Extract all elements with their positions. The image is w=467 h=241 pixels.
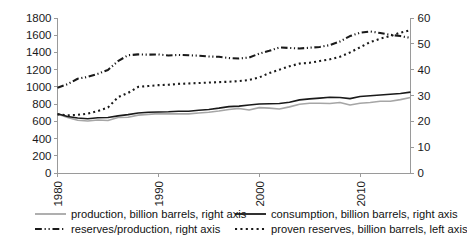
plot-area: 020040060080010001200140016001800 010203… bbox=[26, 12, 430, 207]
legend-label: reserves/production, right axis bbox=[71, 223, 221, 235]
left-axis-tick-label: 1200 bbox=[26, 64, 52, 76]
left-axis-tick-label: 800 bbox=[32, 98, 51, 110]
left-axis-tick-label: 1000 bbox=[26, 81, 52, 93]
series-line-3 bbox=[58, 30, 411, 115]
x-axis-tick-label: 1990 bbox=[153, 181, 165, 207]
chart-legend: production, billion barrels, right axisc… bbox=[35, 208, 467, 235]
right-axis-tick-label: 10 bbox=[418, 141, 431, 153]
x-axis-tick-label: 2010 bbox=[355, 181, 367, 207]
legend-label: consumption, billion barrels, right axis bbox=[271, 208, 458, 220]
left-axis-tick-label: 1400 bbox=[26, 46, 52, 58]
right-axis-tick-label: 60 bbox=[418, 12, 431, 24]
left-axis-tick-label: 400 bbox=[32, 133, 51, 145]
series-line-2 bbox=[58, 31, 411, 87]
legend-label: production, billion barrels, right axis bbox=[71, 208, 247, 220]
series-line-1 bbox=[58, 92, 411, 119]
right-axis-tick-label: 20 bbox=[418, 115, 431, 127]
left-axis-tick-label: 200 bbox=[32, 150, 51, 162]
left-axis-tick-label: 600 bbox=[32, 115, 51, 127]
right-axis-tick-label: 30 bbox=[418, 90, 431, 102]
right-axis-tick-label: 0 bbox=[418, 167, 424, 179]
x-axis-tick-label: 2000 bbox=[254, 181, 266, 207]
right-axis-tick-label: 50 bbox=[418, 38, 431, 50]
left-axis-tick-label: 1800 bbox=[26, 12, 52, 24]
left-axis-tick-label: 1600 bbox=[26, 29, 52, 41]
series-group bbox=[58, 30, 411, 121]
axes-group bbox=[54, 18, 414, 177]
right-axis-tick-labels: 0102030405060 bbox=[418, 12, 431, 179]
legend-label: proven reserves, billion barrels, left a… bbox=[271, 223, 467, 235]
left-axis-tick-labels: 020040060080010001200140016001800 bbox=[26, 12, 52, 179]
x-axis-tick-labels: 1980199020002010 bbox=[52, 181, 367, 207]
x-axis-tick-label: 1980 bbox=[52, 181, 64, 207]
chart-container: 020040060080010001200140016001800 010203… bbox=[0, 0, 467, 241]
right-axis-tick-label: 40 bbox=[418, 64, 431, 76]
left-axis-tick-label: 0 bbox=[45, 167, 51, 179]
line-chart: 020040060080010001200140016001800 010203… bbox=[0, 0, 467, 241]
